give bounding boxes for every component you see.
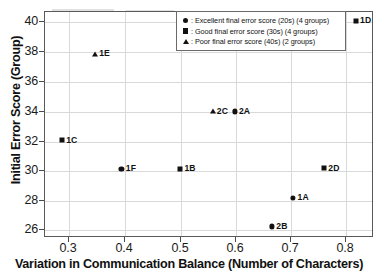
data-point-label: 1B [184, 164, 195, 174]
triangle-marker-icon [210, 109, 216, 114]
legend-item-label: : Excellent final error score (20s) (4 g… [191, 16, 329, 25]
gridline-y-36 [45, 82, 372, 83]
y-tick-label-32: 32 [24, 134, 38, 148]
data-point-1C: 1C [59, 138, 64, 143]
y-tick-mark [39, 81, 44, 82]
y-tick-label-40: 40 [24, 14, 38, 28]
y-tick-mark [39, 200, 44, 201]
data-point-label: 2C [217, 106, 228, 116]
gridline-y-28 [45, 201, 372, 202]
data-point-label: 2B [276, 221, 287, 231]
circle-marker-icon [119, 166, 124, 171]
data-point-label: 2D [328, 163, 339, 173]
gridline-x-0.8 [346, 12, 347, 236]
gridline-y-26 [45, 230, 372, 231]
y-tick-label-28: 28 [24, 193, 38, 207]
data-point-label: 1D [360, 15, 371, 25]
y-tick-mark [39, 111, 44, 112]
circle-marker-icon [291, 195, 296, 200]
data-point-2C: 2C [210, 109, 216, 114]
chart-legend: : Excellent final error score (20s) (4 g… [176, 11, 346, 51]
x-axis-title: Variation in Communication Balance (Numb… [0, 257, 378, 271]
data-point-1E: 1E [92, 51, 98, 56]
scatter-plot-figure: 1F2A1A2B1C1B2D1D1E2C 40 38 36 34 32 30 2… [0, 0, 378, 277]
y-tick-mark [39, 21, 44, 22]
y-tick-label-38: 38 [24, 44, 38, 58]
y-axis-title: Initial Error Score (Group) [9, 10, 23, 210]
triangle-marker-icon [181, 39, 190, 44]
data-point-label: 1C [66, 135, 77, 145]
circle-marker-icon [181, 18, 190, 23]
x-tick-label-0.8: 0.8 [325, 241, 365, 255]
y-tick-label-30: 30 [24, 163, 38, 177]
circle-marker-icon [232, 109, 237, 114]
square-marker-icon [181, 28, 190, 33]
data-point-2A: 2A [232, 109, 237, 114]
square-marker-icon [177, 166, 182, 171]
data-point-label: 2A [239, 106, 250, 116]
circle-marker-icon [269, 224, 274, 229]
x-tick-label-0.3: 0.3 [48, 241, 88, 255]
gridline-x-0.3 [69, 12, 70, 236]
data-point-label: 1E [99, 49, 110, 59]
square-marker-icon [353, 18, 358, 23]
x-tick-label-0.4: 0.4 [104, 241, 144, 255]
y-tick-label-34: 34 [24, 104, 38, 118]
gridline-y-32 [45, 142, 372, 143]
y-tick-mark [39, 141, 44, 142]
y-tick-label-36: 36 [24, 74, 38, 88]
data-point-1D: 1D [353, 18, 358, 23]
x-tick-label-0.6: 0.6 [215, 241, 255, 255]
legend-item-label: : Poor final error score (40s) (2 groups… [191, 37, 315, 46]
y-tick-mark [39, 229, 44, 230]
data-point-2D: 2D [321, 166, 326, 171]
legend-item-excellent: : Excellent final error score (20s) (4 g… [181, 16, 341, 26]
square-marker-icon [59, 138, 64, 143]
data-point-2B: 2B [269, 224, 274, 229]
x-tick-label-0.5: 0.5 [160, 241, 200, 255]
triangle-marker-icon [92, 51, 98, 56]
legend-item-good: : Good final error score (30s) (4 groups… [181, 26, 341, 36]
y-tick-mark [39, 51, 44, 52]
y-tick-label-26: 26 [24, 222, 38, 236]
square-marker-icon [321, 166, 326, 171]
gridline-y-30 [45, 171, 372, 172]
x-tick-label-0.7: 0.7 [270, 241, 310, 255]
data-point-label: 1A [298, 192, 309, 202]
data-point-label: 1F [126, 164, 136, 174]
gridline-x-0.4 [125, 12, 126, 236]
data-point-1F: 1F [119, 166, 124, 171]
legend-item-label: : Good final error score (30s) (4 groups… [191, 27, 318, 36]
gridline-y-34 [45, 112, 372, 113]
y-tick-mark [39, 170, 44, 171]
legend-item-poor: : Poor final error score (40s) (2 groups… [181, 37, 341, 47]
data-point-1B: 1B [177, 166, 182, 171]
data-point-1A: 1A [291, 195, 296, 200]
